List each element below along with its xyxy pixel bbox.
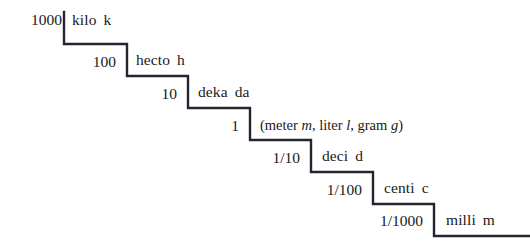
base-unit-close-paren: ) bbox=[398, 117, 403, 133]
prefix-name-kilo: kilo bbox=[72, 11, 97, 28]
prefix-name-deka: deka bbox=[198, 83, 228, 100]
prefix-symbol-deka: da bbox=[235, 83, 250, 100]
value-label-deci: 1/10 bbox=[0, 150, 300, 166]
prefix-label-hecto: hectoh bbox=[136, 52, 185, 68]
base-unit-gram-name: gram bbox=[357, 117, 387, 133]
base-unit-label: (meter m, liter l, gram g) bbox=[260, 118, 403, 133]
value-label-milli: 1/1000 bbox=[0, 213, 423, 229]
prefix-name-centi: centi bbox=[384, 179, 415, 196]
prefix-label-centi: centic bbox=[384, 180, 429, 196]
prefix-label-kilo: kilok bbox=[72, 12, 111, 28]
prefix-name-milli: milli bbox=[446, 211, 476, 228]
value-label-hecto: 100 bbox=[0, 54, 116, 70]
prefix-label-deci: decid bbox=[322, 148, 363, 164]
base-unit-liter-name: liter bbox=[319, 117, 342, 133]
prefix-name-hecto: hecto bbox=[136, 51, 170, 68]
value-label-base: 1 bbox=[0, 118, 239, 134]
metric-staircase-diagram: 1000 kilok 100 hectoh 10 dekada 1 (meter… bbox=[0, 0, 530, 247]
prefix-symbol-hecto: h bbox=[177, 51, 185, 68]
prefix-name-deci: deci bbox=[322, 147, 348, 164]
prefix-symbol-deci: d bbox=[355, 147, 363, 164]
prefix-label-milli: millim bbox=[446, 212, 495, 228]
base-unit-meter-name: meter bbox=[265, 117, 298, 133]
base-unit-meter-symbol: m bbox=[301, 117, 311, 133]
value-label-centi: 1/100 bbox=[0, 182, 362, 198]
prefix-symbol-centi: c bbox=[422, 179, 429, 196]
value-label-deka: 10 bbox=[0, 86, 177, 102]
prefix-symbol-kilo: k bbox=[104, 11, 112, 28]
prefix-label-deka: dekada bbox=[198, 84, 250, 100]
prefix-symbol-milli: m bbox=[483, 211, 495, 228]
value-label-kilo: 1000 bbox=[0, 12, 62, 28]
